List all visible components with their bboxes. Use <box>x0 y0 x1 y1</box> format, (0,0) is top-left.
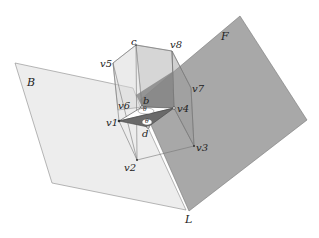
geometry-figure <box>0 0 319 238</box>
angle-theta-top: θ <box>143 106 147 112</box>
vertex-v6-label: v6 <box>118 101 130 111</box>
vertex-v2-label: v2 <box>124 163 136 173</box>
vertex-v1-label: v1 <box>106 118 118 128</box>
vertex-v7-label: v7 <box>192 84 204 94</box>
vertex-v5-label: v5 <box>100 59 112 69</box>
vertex-v8-label: v8 <box>170 40 182 50</box>
point-d-label: d <box>142 129 148 139</box>
line-l-label: L <box>185 214 192 225</box>
vertex-v4-label: v4 <box>177 104 189 114</box>
angle-theta-bottom: θ <box>145 118 149 124</box>
vertex-v3-label: v3 <box>196 143 208 153</box>
plane-b-label: B <box>27 77 35 88</box>
diagram-canvas: B F L v5 c v8 v7 v6 b v4 v1 d v2 v3 θ θ <box>0 0 319 238</box>
plane-f-label: F <box>221 31 229 42</box>
point-c-label: c <box>131 37 137 47</box>
